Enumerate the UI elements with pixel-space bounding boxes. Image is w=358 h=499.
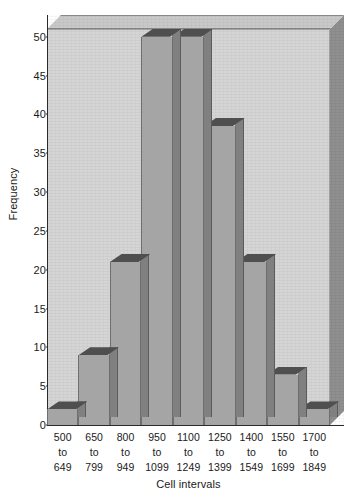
x-tick-label-line: 1700 bbox=[295, 430, 334, 445]
y-tick-label: 20 bbox=[12, 264, 46, 276]
histogram-figure: Frequency 05101520253035404550 500to6496… bbox=[0, 0, 358, 499]
y-tick-label: 0 bbox=[12, 419, 46, 431]
y-tick-label: 5 bbox=[12, 380, 46, 392]
plot-box-right-face bbox=[330, 15, 344, 425]
x-tick-label-line: to bbox=[295, 445, 334, 460]
bar-side-face bbox=[140, 254, 149, 417]
bar-side-face bbox=[203, 29, 212, 417]
bar-side-face bbox=[235, 118, 244, 417]
y-axis-line bbox=[47, 15, 48, 425]
plot-area bbox=[47, 29, 344, 425]
y-axis-title: Frequency bbox=[7, 149, 19, 239]
y-tick-label: 50 bbox=[12, 31, 46, 43]
x-axis-line bbox=[47, 425, 344, 426]
bar-side-face bbox=[172, 29, 181, 417]
histogram-bar bbox=[47, 409, 78, 425]
y-tick-label: 15 bbox=[12, 303, 46, 315]
y-tick-label: 40 bbox=[12, 108, 46, 120]
bar-side-face bbox=[298, 367, 307, 417]
bar-side-face bbox=[109, 347, 118, 417]
y-tick-label: 45 bbox=[12, 70, 46, 82]
bar-series bbox=[47, 29, 330, 425]
x-tick-label-line: 1849 bbox=[295, 460, 334, 475]
y-tick-label: 10 bbox=[12, 341, 46, 353]
x-axis-tick-labels: 500to649650to799800to949950to10991100to1… bbox=[47, 430, 330, 478]
plot-box-top-outline bbox=[47, 15, 344, 29]
bar-front-face bbox=[47, 409, 78, 425]
x-axis-title: Cell intervals bbox=[47, 478, 330, 490]
x-tick-label: 1700to1849 bbox=[295, 430, 334, 475]
bar-side-face bbox=[266, 254, 275, 417]
plot-box-back-wall bbox=[47, 29, 330, 425]
